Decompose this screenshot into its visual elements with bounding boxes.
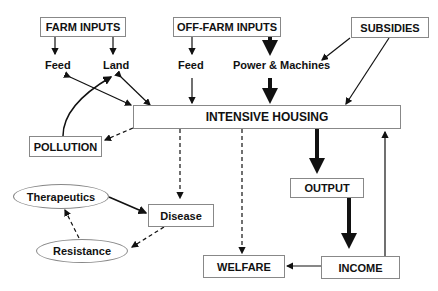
feed-off-farm-label: Feed xyxy=(178,59,204,71)
output-box: OUTPUT xyxy=(290,178,364,198)
power-machines-label: Power & Machines xyxy=(233,59,330,71)
farm-inputs-box: FARM INPUTS xyxy=(40,17,126,37)
subsidies-box: SUBSIDIES xyxy=(351,17,429,38)
welfare-box: WELFARE xyxy=(203,255,285,278)
off-farm-inputs-box: OFF-FARM INPUTS xyxy=(173,17,281,37)
intensive-housing-box: INTENSIVE HOUSING xyxy=(133,105,401,129)
pollution-box: POLLUTION xyxy=(29,136,102,157)
therapeutics-ellipse: Therapeutics xyxy=(13,184,109,209)
disease-box: Disease xyxy=(148,204,214,227)
land-label: Land xyxy=(103,59,129,71)
income-box: INCOME xyxy=(321,256,400,279)
resistance-ellipse: Resistance xyxy=(36,239,128,263)
feed-farm-label: Feed xyxy=(45,59,71,71)
